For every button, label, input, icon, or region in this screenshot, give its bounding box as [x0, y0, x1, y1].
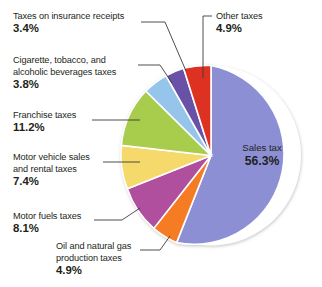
slice-label-name-sales-tax: Sales tax — [242, 142, 281, 153]
slice-label-taxes-on-insurance-receipts: Taxes on insurance receipts 3.4% — [13, 11, 124, 35]
slice-label-name-line-1-oil-and-natural-gas: Oil and natural gas — [56, 241, 131, 253]
slice-label-franchise-taxes: Franchise taxes 11.2% — [13, 110, 76, 134]
pie-chart: Taxes on insurance receipts 3.4% Cigaret… — [0, 0, 322, 287]
slice-label-cigarette-tobacco-and-alcoholic-beverages-taxes: Cigarette, tobacco, and alcoholic bevera… — [13, 55, 116, 90]
slice-label-motor-vehicle-sales-and-rental-taxes: Motor vehicle sales and rental taxes 7.4… — [13, 152, 90, 187]
slice-label-name-line-2-cigarette: alcoholic beverages taxes — [13, 67, 116, 79]
slice-value-sales-tax: 56.3% — [226, 155, 298, 167]
leader-line-other-taxes — [203, 16, 212, 22]
slice-value-other-taxes: 4.9% — [216, 23, 262, 35]
leader-line-taxes-on-insurance-receipts — [141, 22, 186, 71]
slice-value-motor-fuels-taxes: 8.1% — [13, 223, 81, 235]
slice-label-name-other-taxes: Other taxes — [216, 11, 262, 23]
slice-label-motor-fuels-taxes: Motor fuels taxes 8.1% — [13, 211, 81, 235]
slice-value-taxes-on-insurance-receipts: 3.4% — [13, 23, 124, 35]
slice-label-name-line-2-motor-vehicle: and rental taxes — [13, 164, 90, 176]
slice-value-oil-and-natural-gas-production-taxes: 4.9% — [56, 265, 131, 277]
slice-label-name-motor-fuels-taxes: Motor fuels taxes — [13, 211, 81, 223]
leader-line-oil-and-natural-gas-production-taxes — [140, 236, 170, 250]
slice-label-name-line-2-oil-and-natural-gas: production taxes — [56, 253, 131, 265]
slice-label-name-line-1-motor-vehicle: Motor vehicle sales — [13, 152, 90, 164]
slice-label-other-taxes: Other taxes 4.9% — [216, 11, 262, 35]
slice-label-name-taxes-on-insurance-receipts: Taxes on insurance receipts — [13, 11, 124, 23]
slice-value-franchise-taxes: 11.2% — [13, 122, 76, 134]
slice-label-name-line-1-cigarette: Cigarette, tobacco, and — [13, 55, 116, 67]
slice-label-name-franchise-taxes: Franchise taxes — [13, 110, 76, 122]
leader-line-motor-fuels-taxes — [94, 208, 140, 220]
slice-label-oil-and-natural-gas-production-taxes: Oil and natural gas production taxes 4.9… — [56, 241, 131, 276]
slice-label-sales-tax: Sales tax 56.3% — [226, 142, 298, 167]
slice-value-cigarette-tobacco-and-alcoholic-beverages-taxes: 3.8% — [13, 79, 116, 91]
slice-value-motor-vehicle-sales-and-rental-taxes: 7.4% — [13, 176, 90, 188]
